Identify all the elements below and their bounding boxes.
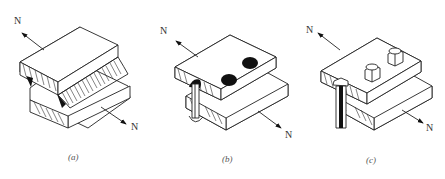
force-arrow-top bbox=[22, 33, 44, 50]
panel-b-riveted-joint bbox=[175, 35, 288, 130]
rivet-head-front bbox=[221, 74, 237, 86]
force-label-a-bottom: N bbox=[131, 121, 138, 132]
joint-diagram-figure: N N (a) bbox=[0, 0, 445, 179]
rivet-head-back bbox=[242, 57, 258, 69]
force-arrow-top bbox=[176, 41, 198, 57]
caption-c: (c) bbox=[366, 155, 376, 165]
panel-c-bolted-joint bbox=[318, 33, 432, 130]
caption-a: (a) bbox=[68, 152, 79, 162]
force-label-b-bottom: N bbox=[285, 129, 292, 140]
force-label-c-top: N bbox=[306, 24, 313, 35]
panel-a-welded-joint bbox=[20, 27, 130, 128]
force-label-c-bottom: N bbox=[426, 122, 433, 133]
hex-nut-back bbox=[388, 48, 403, 66]
hex-nut-front bbox=[365, 64, 380, 82]
caption-b: (b) bbox=[222, 154, 233, 164]
bolt-sectioned bbox=[333, 78, 348, 128]
force-arrow-bottom bbox=[258, 111, 281, 128]
force-label-b-top: N bbox=[160, 25, 167, 36]
force-arrow-top bbox=[318, 33, 340, 50]
force-label-a-top: N bbox=[14, 15, 21, 26]
force-arrow-bottom bbox=[402, 110, 423, 123]
